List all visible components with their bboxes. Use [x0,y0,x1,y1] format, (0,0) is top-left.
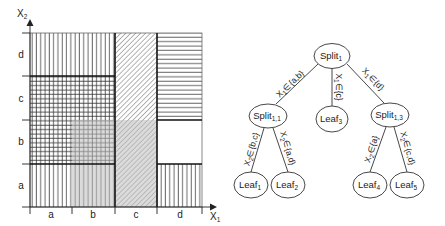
edge-label-root-split11: X1∈{a,b} [274,68,307,100]
y-axis-label: X2 [17,8,28,20]
y-tick-b: b [18,136,24,147]
y-tick-a: a [18,180,24,191]
region-ab-d [30,33,115,76]
x-tick-b: b [90,209,96,220]
x-axis-label: X1 [210,211,221,223]
x-axis-arrow-icon [210,204,217,211]
y-tick-c: c [19,93,24,104]
x-tick-d: d [177,209,183,220]
edge-label-root-split13: X1∈{d} [359,65,386,93]
x-tick-c: c [134,209,139,220]
edge-label-root-leaf3: X1∈{c} [333,73,344,100]
y-axis-arrow-icon [27,19,34,26]
decision-tree: X1∈{a,b} X1∈{c} X1∈{d} X2∈{b,c} X2∈{a,d}… [234,44,424,199]
partition-plot: X2 X1 a b c d a b c d [17,8,221,223]
edge-label-split11-leaf1: X2∈{b,c} [242,131,262,167]
diagram-canvas: X2 X1 a b c d a b c d X1∈{a,b} X1∈{c} X1… [0,0,445,226]
x-tick-a: a [48,209,54,220]
region-d-a [157,164,202,207]
y-tick-d: d [18,49,24,60]
region-d-cd [157,33,202,120]
